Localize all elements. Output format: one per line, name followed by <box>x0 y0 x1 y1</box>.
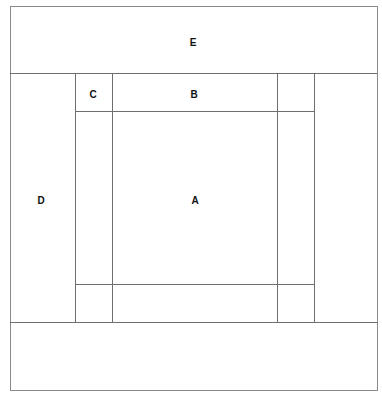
region-a-label: A <box>191 196 198 206</box>
divider-e-bottom <box>10 73 377 74</box>
divider-b-bottom <box>75 111 315 112</box>
divider-bottom-band-top <box>10 322 377 323</box>
region-b-label: B <box>190 90 197 100</box>
region-e-label: E <box>190 38 197 48</box>
region-d-label: D <box>37 196 44 206</box>
divider-a-bottom <box>75 284 315 285</box>
region-c-label: C <box>89 90 96 100</box>
